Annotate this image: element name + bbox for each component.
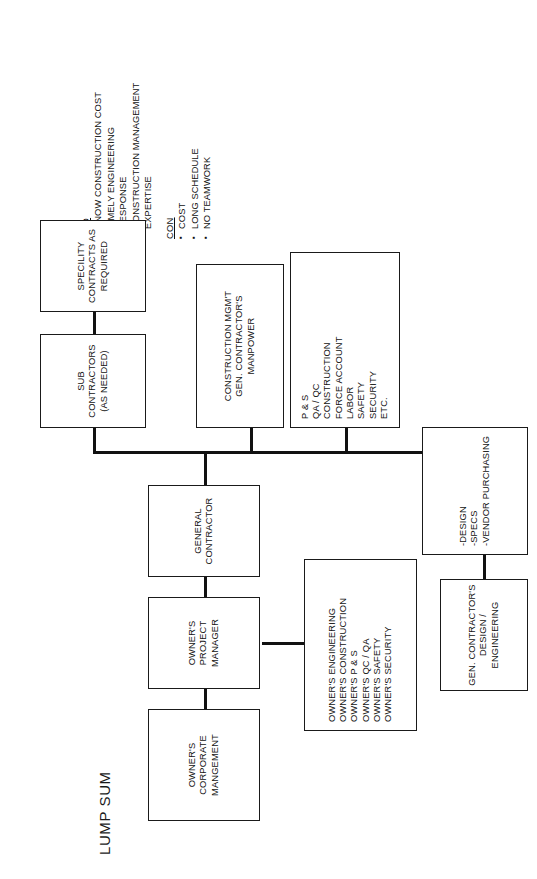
connector-gc-design-to-items (483, 555, 486, 579)
node-gc-design-engineering[interactable]: GEN. CONTRACTOR'S DESIGN / ENGINEERING (440, 579, 528, 691)
node-construction-management[interactable]: CONSTRUCTION MGM'T GEN. CONTRACTOR'S MAN… (196, 264, 284, 428)
bullet-icon: ▪ (201, 229, 212, 239)
pro-item: ▪ CONSTRUCTION MANAGEMENT EXPERTISE (130, 24, 155, 239)
connector-trunk-to-ps-qaqc (345, 428, 348, 454)
node-label: SUB CONTRACTORS (AS NEEDED) (76, 344, 110, 417)
node-sub-contractors[interactable]: SUB CONTRACTORS (AS NEEDED) (40, 334, 146, 428)
con-item-label: COST (176, 203, 188, 229)
connector-subs-to-specialty (93, 312, 96, 334)
bullet-icon: ▪ (189, 229, 200, 239)
node-owner-staff[interactable]: OWNER'S ENGINEERING OWNER'S CONSTRUCTION… (304, 559, 417, 731)
pro-item-label: TIMELY ENGINEERING RESPONSE (105, 127, 130, 229)
connector-trunk-to-subs (93, 428, 96, 454)
con-item-label: NO TEAMWORK (201, 157, 213, 229)
pro-heading: PRO (80, 24, 92, 239)
node-label: OWNER'S PROJECT MANAGER (187, 602, 221, 684)
con-heading: CON (164, 24, 176, 239)
node-label: OWNER'S CORPORATE MANGEMENT (187, 714, 221, 816)
node-gc-design-deliverables[interactable]: -DESIGN -SPECS -VENDOR PURCHASING (422, 427, 528, 555)
con-item: ▪ LONG SCHEDULE (189, 24, 201, 239)
node-gc-ps-qaqc[interactable]: P & S QA / QC CONSTRUCTION FORCE ACCOUNT… (290, 252, 400, 428)
node-owner-project-manager[interactable]: OWNER'S PROJECT MANAGER (148, 597, 260, 689)
node-label: OWNER'S ENGINEERING OWNER'S CONSTRUCTION… (327, 598, 395, 722)
pro-item: ▪ TIMELY ENGINEERING RESPONSE (105, 24, 130, 239)
connector-gc-trunk-stub (204, 451, 207, 487)
con-item-label: LONG SCHEDULE (189, 148, 201, 229)
node-label: -DESIGN -SPECS -VENDOR PURCHASING (458, 436, 492, 546)
con-item: ▪ NO TEAMWORK (201, 24, 213, 239)
org-chart-canvas: LUMP SUM PRO ▪ KNOW CONSTRUCTION COST ▪ … (0, 0, 537, 879)
node-label: GENERAL CONTRACTOR (193, 490, 216, 572)
node-label: P & S QA / QC CONSTRUCTION FORCE ACCOUNT… (300, 336, 391, 419)
connector-pm-to-staff (262, 642, 304, 645)
connector-pm-to-gc (204, 575, 207, 599)
pro-con-notes: PRO ▪ KNOW CONSTRUCTION COST ▪ TIMELY EN… (80, 24, 214, 239)
connector-owner-corp-to-pm (204, 687, 207, 711)
pro-item-label: KNOW CONSTRUCTION COST (92, 92, 104, 229)
node-general-contractor[interactable]: GENERAL CONTRACTOR (148, 485, 260, 577)
page-title: LUMP SUM (96, 771, 113, 855)
node-label: GEN. CONTRACTOR'S DESIGN / ENGINEERING (467, 584, 501, 686)
node-label: CONSTRUCTION MGM'T GEN. CONTRACTOR'S MAN… (223, 291, 257, 401)
pro-item: ▪ KNOW CONSTRUCTION COST (92, 24, 104, 239)
node-owner-corporate-management[interactable]: OWNER'S CORPORATE MANGEMENT (148, 709, 260, 821)
node-label: SPECILITY CONTRACTS AS REQUIRED (76, 229, 110, 303)
pro-item-label: CONSTRUCTION MANAGEMENT EXPERTISE (130, 83, 155, 229)
node-specialty-contracts[interactable]: SPECILITY CONTRACTS AS REQUIRED (40, 220, 146, 312)
connector-trunk-to-const-mgmt (250, 428, 253, 454)
con-item: ▪ COST (176, 24, 188, 239)
bullet-icon: ▪ (176, 229, 187, 239)
